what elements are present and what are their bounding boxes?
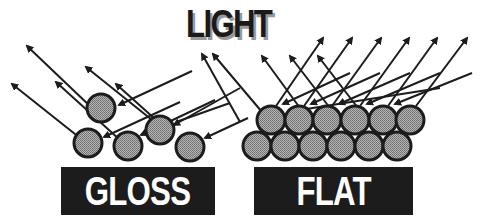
flat-incoming-rays [283, 73, 472, 110]
gloss-incoming-rays [104, 71, 248, 138]
gloss-particle [87, 94, 115, 122]
gloss-particle [146, 116, 174, 144]
flat-label: FLAT [254, 167, 413, 215]
gloss-label-text: GLOSS [85, 169, 190, 214]
flat-particles-top-row [257, 106, 424, 134]
flat-particles-bottom-row [243, 132, 411, 160]
gloss-label: GLOSS [61, 167, 215, 215]
diagram-title: LIGHT [186, 4, 268, 44]
diagram-canvas: LIGHT GLOSS FLAT [0, 0, 483, 223]
gloss-particle [74, 129, 102, 157]
gloss-particle [176, 133, 204, 161]
flat-label-text: FLAT [296, 169, 370, 214]
flat-reflected-rays-right [276, 38, 467, 106]
gloss-particle [114, 132, 142, 160]
